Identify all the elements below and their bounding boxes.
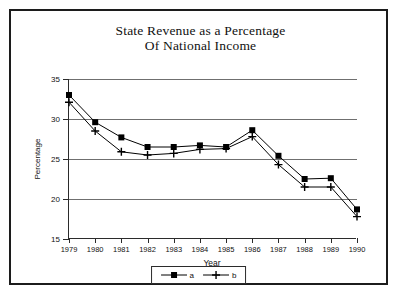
series-plot [69,79,357,239]
data-point-a [302,176,308,182]
legend-label-a: a [190,271,194,280]
x-tick-label: 1982 [139,245,156,254]
x-tick-label: 1989 [322,245,339,254]
legend-entry-a[interactable]: a [161,270,194,280]
x-tick-label: 1985 [218,245,235,254]
legend-entry-b[interactable]: b [203,270,236,280]
y-tick-label: 15 [51,235,60,244]
legend-marker-plus-icon [203,270,229,280]
x-tick-label: 1983 [165,245,182,254]
y-tick-label: 25 [51,155,60,164]
legend-label-b: b [232,271,236,280]
x-tick-label: 1986 [244,245,261,254]
data-point-a [275,153,281,159]
data-point-a [171,144,177,150]
chart-title: State Revenue as a Percentage Of Nationa… [11,23,390,53]
chart-title-line1: State Revenue as a Percentage [116,23,286,38]
series-line-b [69,102,357,216]
x-tick-label: 1979 [61,245,78,254]
y-tick-label: 30 [51,115,60,124]
chart-legend: ab [151,266,247,284]
chart-frame: State Revenue as a Percentage Of Nationa… [9,9,388,285]
x-tick-label: 1987 [270,245,287,254]
x-tick-label: 1980 [87,245,104,254]
plot-area: 1520253035 19791980198119821983198419851… [68,79,356,239]
data-point-a [328,175,334,181]
y-tick-label: 20 [51,195,60,204]
x-tick-label: 1988 [296,245,313,254]
data-point-b [144,151,152,159]
y-tick-label: 35 [51,75,60,84]
x-tick-label: 1981 [113,245,130,254]
data-point-a [249,127,255,133]
x-tick-label: 1984 [192,245,209,254]
data-point-a [92,119,98,125]
series-line-a [69,95,357,209]
data-point-b [170,149,178,157]
legend-marker-square-icon [161,270,187,280]
data-point-a [66,92,72,98]
data-point-a [354,206,360,212]
x-tick [357,238,358,243]
chart-title-line2: Of National Income [11,38,390,53]
y-axis-title: Percentage [33,139,42,180]
data-point-a [145,144,151,150]
data-point-a [118,134,124,140]
x-tick-label: 1990 [349,245,366,254]
